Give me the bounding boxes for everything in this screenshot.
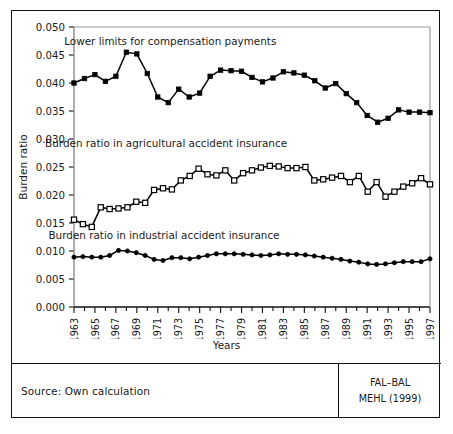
data-point bbox=[250, 75, 254, 79]
data-point bbox=[276, 164, 281, 169]
data-point bbox=[187, 173, 192, 178]
credit-line-1: FAL–BAL bbox=[370, 375, 410, 390]
data-point bbox=[205, 172, 210, 177]
figure-footer: Source: Own calculation FAL–BAL MEHL (19… bbox=[12, 363, 441, 417]
data-point bbox=[223, 252, 227, 256]
data-point bbox=[72, 255, 76, 259]
data-point bbox=[321, 255, 325, 259]
data-point bbox=[241, 252, 245, 256]
data-point bbox=[401, 184, 406, 189]
data-point bbox=[143, 253, 147, 257]
data-point bbox=[419, 260, 423, 264]
data-point bbox=[271, 76, 275, 80]
data-point bbox=[152, 187, 157, 192]
data-point bbox=[407, 110, 411, 114]
data-point bbox=[303, 164, 308, 169]
data-point bbox=[277, 252, 281, 256]
data-point bbox=[108, 253, 112, 257]
data-point bbox=[259, 253, 263, 257]
data-point bbox=[218, 68, 222, 72]
chart-area: Burden ratio 0.0000.0050.0100.0150.0200.… bbox=[12, 11, 441, 363]
data-point bbox=[134, 199, 139, 204]
series-3 bbox=[72, 248, 432, 266]
series-label-2: Burden ratio in agricultural accident in… bbox=[45, 137, 287, 149]
data-point bbox=[229, 68, 233, 72]
data-point bbox=[161, 258, 165, 262]
x-tick-label: 1985 bbox=[299, 318, 310, 339]
x-tick-label: 1967 bbox=[110, 318, 121, 339]
data-point bbox=[166, 100, 170, 104]
y-tick-label: 0.005 bbox=[36, 274, 65, 285]
data-point bbox=[214, 252, 218, 256]
data-point bbox=[392, 261, 396, 265]
y-tick-label: 0.035 bbox=[36, 106, 65, 117]
data-point bbox=[208, 74, 212, 78]
x-tick-label: 1977 bbox=[215, 318, 226, 339]
source-note: Source: Own calculation bbox=[12, 364, 338, 417]
x-tick-label: 1989 bbox=[341, 318, 352, 339]
data-point bbox=[339, 257, 343, 261]
data-point bbox=[396, 108, 400, 112]
data-point bbox=[80, 222, 85, 227]
y-tick-label: 0.045 bbox=[36, 50, 65, 61]
x-tick-label: 1965 bbox=[90, 318, 101, 339]
data-point bbox=[156, 95, 160, 99]
credit-line-2: MEHL (1999) bbox=[359, 391, 421, 406]
data-point bbox=[232, 252, 236, 256]
data-point bbox=[116, 206, 121, 211]
data-point bbox=[428, 110, 432, 114]
series-1 bbox=[72, 50, 432, 124]
data-point bbox=[81, 255, 85, 259]
data-point bbox=[241, 171, 246, 176]
series-annotations: Lower limits for compensation paymentsBu… bbox=[45, 35, 287, 241]
data-point bbox=[197, 91, 201, 95]
data-point bbox=[260, 80, 264, 84]
data-point bbox=[135, 52, 139, 56]
data-point bbox=[338, 173, 343, 178]
data-point bbox=[365, 189, 370, 194]
y-tick-label: 0.020 bbox=[36, 190, 65, 201]
data-point bbox=[347, 180, 352, 185]
data-point bbox=[93, 72, 97, 76]
y-axis-label: Burden ratio bbox=[17, 112, 29, 222]
data-point bbox=[99, 255, 103, 259]
data-point bbox=[344, 91, 348, 95]
data-point bbox=[232, 178, 237, 183]
data-point bbox=[90, 255, 94, 259]
x-tick-label: 1963 bbox=[69, 318, 80, 339]
data-point bbox=[214, 173, 219, 178]
data-point bbox=[292, 71, 296, 75]
data-point bbox=[357, 260, 361, 264]
data-point bbox=[312, 178, 317, 183]
data-point bbox=[365, 113, 369, 117]
data-point bbox=[348, 259, 352, 263]
y-tick-label: 0.010 bbox=[36, 246, 65, 257]
x-tick-label: 1979 bbox=[236, 318, 247, 339]
x-tick-label: 1993 bbox=[383, 318, 394, 339]
x-tick-label: 1973 bbox=[173, 318, 184, 339]
x-tick-label: 1987 bbox=[320, 318, 331, 339]
x-axis-ticks: 1963196519671969197119731975197719791981… bbox=[69, 307, 436, 339]
series-label-3: Burden ratio in industrial accident insu… bbox=[48, 229, 279, 241]
data-point bbox=[313, 79, 317, 83]
y-tick-label: 0.015 bbox=[36, 218, 65, 229]
data-point bbox=[286, 252, 290, 256]
x-tick-label: 1983 bbox=[278, 318, 289, 339]
data-point bbox=[143, 200, 148, 205]
data-point bbox=[281, 70, 285, 74]
data-point bbox=[124, 50, 128, 54]
data-point bbox=[82, 76, 86, 80]
x-tick-label: 1971 bbox=[152, 318, 163, 339]
x-tick-label: 1969 bbox=[131, 318, 142, 339]
series-2 bbox=[71, 163, 432, 229]
data-point bbox=[72, 81, 76, 85]
data-point bbox=[116, 248, 120, 252]
data-point bbox=[312, 254, 316, 258]
data-point bbox=[330, 175, 335, 180]
credit-block: FAL–BAL MEHL (1999) bbox=[338, 364, 441, 417]
data-point bbox=[177, 87, 181, 91]
data-point bbox=[239, 69, 243, 73]
data-point bbox=[170, 256, 174, 260]
data-point bbox=[267, 163, 272, 168]
data-point bbox=[417, 110, 421, 114]
